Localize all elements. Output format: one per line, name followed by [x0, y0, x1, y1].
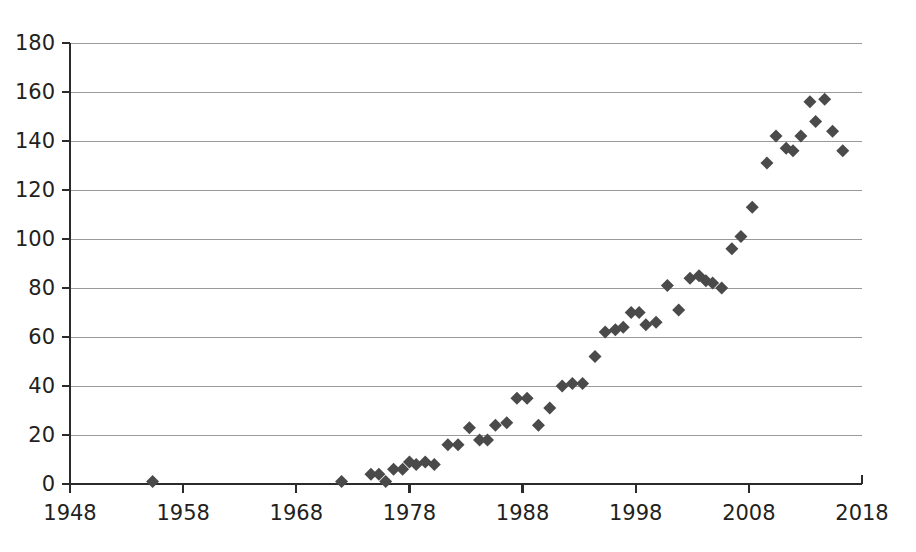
data-point — [725, 242, 738, 255]
data-point — [836, 144, 849, 157]
y-tick-label-40: 40 — [28, 374, 55, 398]
data-point — [588, 350, 601, 363]
data-point — [746, 201, 759, 214]
data-point — [335, 475, 348, 488]
y-tick-label-0: 0 — [42, 472, 55, 496]
data-point — [633, 306, 646, 319]
x-tick-label-2008: 2008 — [722, 501, 775, 525]
data-point — [650, 316, 663, 329]
y-tick-label-140: 140 — [15, 129, 55, 153]
data-point — [684, 272, 697, 285]
x-tick-label-1998: 1998 — [609, 501, 662, 525]
data-point — [428, 458, 441, 471]
data-point — [809, 115, 822, 128]
x-tick-label-1988: 1988 — [496, 501, 549, 525]
data-point — [803, 95, 816, 108]
data-point — [826, 125, 839, 138]
chart-canvas: 19481958196819781988199820082018 0204060… — [0, 0, 916, 552]
data-point — [576, 377, 589, 390]
data-point — [818, 93, 831, 106]
data-point — [521, 392, 534, 405]
y-tick-label-20: 20 — [28, 423, 55, 447]
x-tick-label-1958: 1958 — [156, 501, 209, 525]
data-point — [463, 421, 476, 434]
y-tick-label-100: 100 — [15, 227, 55, 251]
x-axis-tick-labels: 19481958196819781988199820082018 — [43, 501, 888, 525]
x-tick-label-1968: 1968 — [270, 501, 323, 525]
y-tick-label-180: 180 — [15, 31, 55, 55]
x-tick-label-2018: 2018 — [835, 501, 888, 525]
data-point — [734, 230, 747, 243]
y-tick-label-120: 120 — [15, 178, 55, 202]
y-tick-label-60: 60 — [28, 325, 55, 349]
data-point — [661, 279, 674, 292]
y-tick-label-80: 80 — [28, 276, 55, 300]
data-point — [146, 475, 159, 488]
scatter-chart: 19481958196819781988199820082018 0204060… — [0, 0, 916, 552]
data-point-markers — [146, 93, 849, 488]
y-tick-label-160: 160 — [15, 80, 55, 104]
data-point — [760, 157, 773, 170]
data-point — [532, 419, 545, 432]
data-point — [556, 380, 569, 393]
x-tick-label-1978: 1978 — [383, 501, 436, 525]
y-axis-tick-labels: 020406080100120140160180 — [15, 31, 55, 496]
data-point — [672, 304, 685, 317]
x-tick-label-1948: 1948 — [43, 501, 96, 525]
x-axis-ticks — [70, 484, 749, 493]
data-point — [419, 455, 432, 468]
data-point — [500, 416, 513, 429]
data-point — [489, 419, 502, 432]
data-point — [452, 438, 465, 451]
data-point — [639, 318, 652, 331]
data-point — [543, 402, 556, 415]
chart-axes — [70, 43, 862, 484]
